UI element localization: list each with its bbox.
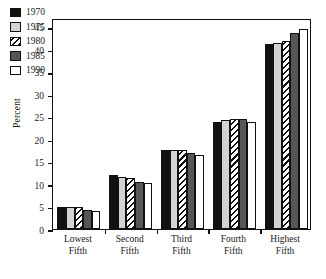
bar-1990-highest-fifth <box>299 29 308 229</box>
bar-1990-fourth-fifth <box>247 122 256 229</box>
bar-1985-highest-fifth <box>290 33 299 229</box>
diagonal-hatch-swatch <box>10 37 21 47</box>
chart-legend: 19701975198019851990 <box>10 6 45 77</box>
bar-1970-third-fifth <box>161 150 170 229</box>
bar-1980-third-fifth <box>178 150 187 229</box>
solid-black-swatch <box>10 8 21 18</box>
bar-1975-lowest-fifth <box>66 207 75 229</box>
bar-1970-fourth-fifth <box>213 122 222 229</box>
dark-gray-swatch <box>10 51 21 61</box>
bar-1980-lowest-fifth <box>75 207 84 229</box>
bar-1980-second-fifth <box>126 178 135 229</box>
legend-item-1970: 1970 <box>10 6 45 19</box>
y-tick-label: 10 <box>20 179 44 194</box>
plot-area: 051015202530354045 <box>52 19 311 230</box>
bar-group <box>57 20 100 229</box>
y-tick-label: 5 <box>20 201 44 216</box>
legend-label: 1990 <box>26 65 45 76</box>
bar-1980-fourth-fifth <box>230 119 239 229</box>
bar-1975-second-fifth <box>118 177 127 229</box>
legend-item-1990: 1990 <box>10 64 45 77</box>
bar-group <box>109 20 152 229</box>
bar-1975-highest-fifth <box>273 43 282 229</box>
bar-1990-lowest-fifth <box>92 211 101 229</box>
legend-item-1985: 1985 <box>10 50 45 63</box>
bars-layer <box>53 20 310 229</box>
bar-1985-third-fifth <box>187 153 196 229</box>
bar-1975-third-fifth <box>170 150 179 229</box>
bar-1970-lowest-fifth <box>57 207 66 229</box>
bar-1985-lowest-fifth <box>83 210 92 229</box>
y-tick-label: 0 <box>20 224 44 239</box>
y-tick-label: 30 <box>20 89 44 104</box>
bar-group <box>161 20 204 229</box>
white-swatch <box>10 66 21 76</box>
bar-group <box>213 20 256 229</box>
x-axis-label-highest-fifth: HighestFifth <box>254 234 316 257</box>
bar-1970-highest-fifth <box>265 44 274 229</box>
bar-1985-fourth-fifth <box>239 119 248 229</box>
legend-item-1980: 1980 <box>10 35 45 48</box>
y-tick-label: 25 <box>20 111 44 126</box>
bar-1975-fourth-fifth <box>221 120 230 229</box>
bar-1970-second-fifth <box>109 175 118 229</box>
legend-label: 1970 <box>26 7 45 18</box>
y-tick-label: 15 <box>20 156 44 171</box>
light-gray-swatch <box>10 22 21 32</box>
bar-1985-second-fifth <box>135 182 144 229</box>
legend-label: 1975 <box>26 22 45 33</box>
bar-1990-third-fifth <box>195 155 204 229</box>
bar-chart-figure: Percent 051015202530354045 LowestFifthSe… <box>0 0 326 279</box>
y-tick-label: 20 <box>20 134 44 149</box>
y-tick-mark <box>48 230 53 231</box>
legend-label: 1980 <box>26 36 45 47</box>
legend-label: 1985 <box>26 51 45 62</box>
bar-group <box>265 20 308 229</box>
legend-item-1975: 1975 <box>10 21 45 34</box>
bar-1980-highest-fifth <box>282 41 291 229</box>
bar-1990-second-fifth <box>144 183 153 229</box>
